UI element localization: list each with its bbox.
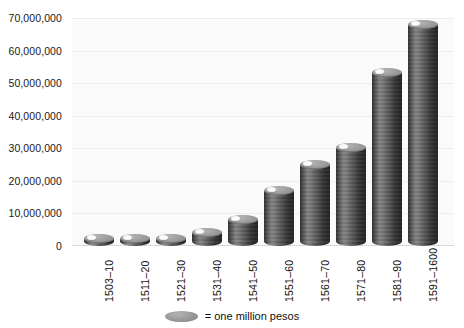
coin-notch [411, 21, 420, 26]
bar-1581–90 [372, 68, 402, 246]
bar-1591–1600 [408, 20, 438, 246]
x-tick-label: 1561–70 [319, 260, 331, 302]
x-tick-label: 1531–40 [211, 260, 223, 302]
coin-notch [159, 235, 168, 240]
y-tick-label: 60,000,000 [8, 45, 62, 57]
legend-label: = one million pesos [205, 310, 299, 322]
y-tick-label: 10,000,000 [8, 207, 62, 219]
x-tick-label: 1511–20 [139, 261, 151, 303]
x-axis: 1503–101511–201521–301531–401541–501551–… [72, 248, 454, 304]
coin-stack [300, 165, 330, 246]
coin-notch [231, 216, 240, 221]
bar-1551–60 [264, 186, 294, 246]
x-tick-label: 1571–80 [355, 260, 367, 302]
x-tick-label: 1521–30 [175, 260, 187, 302]
treasure-imports-coin-chart: 010,000,00020,000,00030,000,00040,000,00… [0, 0, 464, 328]
bar-1521–30 [156, 234, 186, 246]
coin-notch [195, 229, 204, 234]
coin-notch [303, 161, 312, 166]
y-tick-label: 30,000,000 [8, 142, 62, 154]
x-tick-label: 1541–50 [247, 260, 259, 302]
y-tick-label: 20,000,000 [8, 175, 62, 187]
bars-layer [72, 18, 454, 246]
y-axis: 010,000,00020,000,00030,000,00040,000,00… [0, 0, 70, 246]
x-tick-label: 1591–1600 [427, 248, 439, 302]
x-tick-label: 1503–10 [103, 260, 115, 302]
coin-notch [123, 235, 132, 240]
bar-1541–50 [228, 215, 258, 246]
bar-1511–20 [120, 234, 150, 246]
coin-icon [165, 311, 198, 322]
y-tick-label: 50,000,000 [8, 77, 62, 89]
y-tick-label: 70,000,000 [8, 12, 62, 24]
coin-stack [336, 148, 366, 246]
bar-1561–70 [300, 160, 330, 246]
bar-1571–80 [336, 143, 366, 246]
x-tick-label: 1581–90 [391, 260, 403, 302]
coin-notch [267, 187, 276, 192]
coin-notch [87, 235, 96, 240]
coin-stack [372, 73, 402, 246]
bar-1503–10 [84, 234, 114, 246]
bar-1531–40 [192, 228, 222, 246]
y-tick-label: 40,000,000 [8, 110, 62, 122]
chart-legend: = one million pesos [0, 304, 464, 328]
x-tick-label: 1551–60 [283, 260, 295, 302]
coin-stack [264, 191, 294, 246]
coin-stack [408, 25, 438, 246]
y-tick-label: 0 [56, 240, 62, 252]
